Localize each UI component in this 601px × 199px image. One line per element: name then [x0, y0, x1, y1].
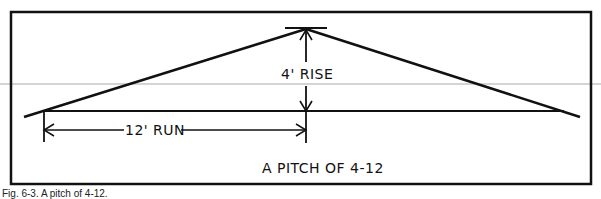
rise-label: 4' RISE: [281, 66, 333, 82]
right-rafter: [306, 29, 580, 117]
roof-pitch-diagram: 4' RISE 12' RUN A PITCH OF 4-12: [0, 0, 601, 199]
left-rafter: [24, 29, 306, 117]
figure-caption: Fig. 6-3. A pitch of 4-12.: [2, 188, 108, 199]
run-label: 12' RUN: [125, 122, 185, 138]
pitch-label: A PITCH OF 4-12: [262, 160, 384, 176]
